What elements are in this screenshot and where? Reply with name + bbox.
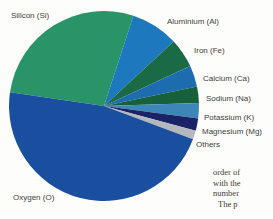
body-text-line: order of: [213, 167, 273, 178]
body-text-line: with the: [213, 178, 273, 189]
slice-label-aluminium: Aluminium (Al): [167, 17, 219, 26]
slice-label-others: Others: [196, 140, 220, 149]
slice-label-potassium: Potassium (K): [204, 113, 254, 122]
slice-label-silicon: Silicon (Si): [11, 11, 49, 20]
body-text-fragment: order of with the number The p: [213, 167, 273, 209]
slice-label-calcium: Calcium (Ca): [203, 74, 250, 83]
slice-label-sodium: Sodium (Na): [206, 94, 251, 103]
slice-label-magnesium: Magnesium (Mg): [202, 127, 262, 136]
slice-label-oxygen: Oxygen (O): [13, 193, 54, 202]
body-text-line: number: [213, 188, 273, 199]
book-page: Silicon (Si) Aluminium (Al) Iron (Fe) Ca…: [0, 0, 273, 219]
slice-label-iron: Iron (Fe): [194, 46, 225, 55]
body-text-line: The p: [213, 199, 273, 210]
